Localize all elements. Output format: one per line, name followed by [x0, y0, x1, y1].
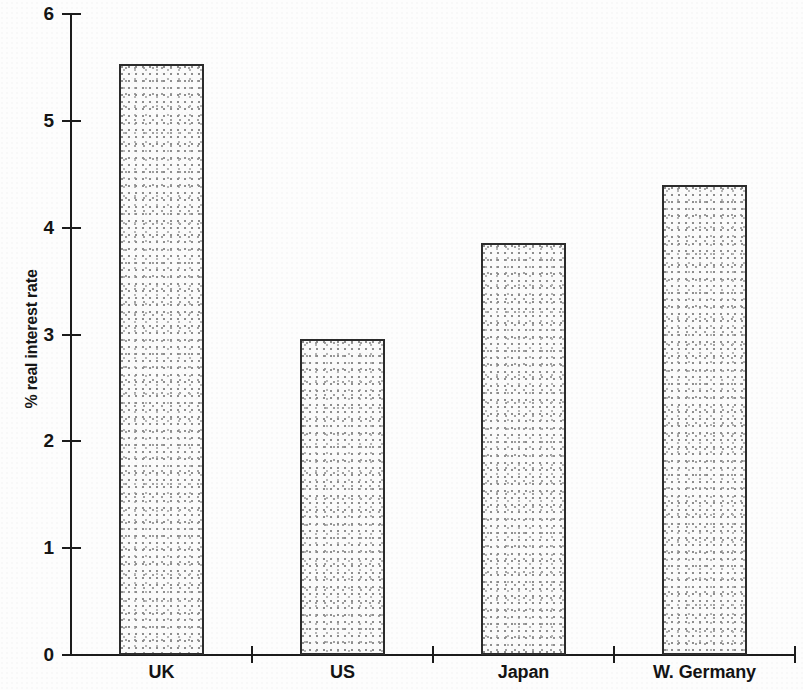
y-axis-tick-label: 1 — [22, 538, 54, 557]
y-axis-tick-label: 6 — [22, 4, 54, 23]
x-axis-label-uk: UK — [71, 662, 252, 683]
y-axis-tick-label: 4 — [22, 218, 54, 237]
x-axis-label-us: US — [252, 662, 433, 683]
bar-japan — [481, 243, 566, 655]
y-axis-tick-label: 3 — [22, 325, 54, 344]
bar-chart: % real interest rate 0123456 UKUSJapanW.… — [0, 0, 803, 690]
y-axis-tick — [62, 227, 81, 229]
x-axis-label-japan: Japan — [433, 662, 614, 683]
bar-us — [300, 339, 385, 655]
y-axis-tick — [62, 440, 81, 442]
bar-w-germany — [662, 185, 747, 655]
y-axis-tick — [62, 334, 81, 336]
x-axis-label-w-germany: W. Germany — [614, 662, 795, 683]
bar-uk — [119, 64, 204, 655]
y-axis-tick — [62, 654, 81, 656]
y-axis-tick-label: 2 — [22, 431, 54, 450]
y-axis-tick-label: 0 — [22, 645, 54, 664]
x-axis-tick — [432, 646, 434, 663]
x-axis-tick — [251, 646, 253, 663]
y-axis-tick — [62, 13, 81, 15]
y-axis-tick — [62, 120, 81, 122]
x-axis-end-tick — [794, 646, 796, 663]
x-axis-tick — [613, 646, 615, 663]
y-axis-tick-label: 5 — [22, 111, 54, 130]
y-axis-tick — [62, 547, 81, 549]
